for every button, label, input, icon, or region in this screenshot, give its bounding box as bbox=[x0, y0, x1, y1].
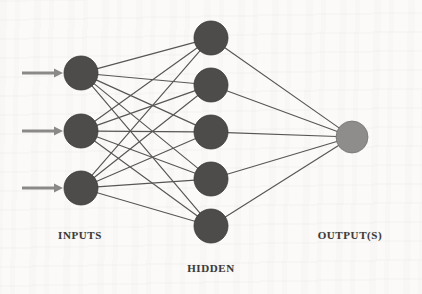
edge-i1-h5 bbox=[91, 85, 200, 214]
edge-i1-h1 bbox=[96, 42, 195, 69]
edge-i3-h4 bbox=[97, 180, 195, 187]
layer-label-outputs: OUTPUT(S) bbox=[318, 229, 383, 241]
edge-h2-o1 bbox=[226, 91, 338, 132]
input-hidden-edges bbox=[91, 42, 200, 221]
node-hidden-h4 bbox=[194, 162, 228, 196]
node-input-i2 bbox=[64, 114, 98, 148]
neural-network-diagram: INPUTS HIDDEN OUTPUT(S) bbox=[0, 0, 422, 294]
edge-i3-h5 bbox=[96, 192, 195, 221]
edge-i1-h3 bbox=[96, 80, 197, 126]
layer-label-inputs: INPUTS bbox=[58, 229, 102, 241]
edge-h1-o1 bbox=[224, 47, 340, 128]
edge-h5-o1 bbox=[225, 145, 340, 217]
layer-label-hidden: HIDDEN bbox=[187, 262, 235, 274]
hidden-output-edges bbox=[224, 47, 340, 217]
node-input-i3 bbox=[64, 171, 98, 205]
network-graphic bbox=[0, 0, 422, 294]
edge-i2-h3 bbox=[97, 131, 195, 132]
node-output-o1 bbox=[336, 121, 368, 153]
network-nodes-group bbox=[64, 21, 368, 243]
node-hidden-h3 bbox=[194, 115, 228, 149]
edge-i2-h5 bbox=[94, 140, 198, 216]
edge-h4-o1 bbox=[226, 141, 337, 174]
edge-h3-o1 bbox=[227, 133, 337, 137]
node-hidden-h1 bbox=[194, 21, 228, 55]
node-input-i1 bbox=[64, 56, 98, 90]
node-hidden-h5 bbox=[194, 209, 228, 243]
edge-i1-h2 bbox=[97, 74, 195, 83]
input-arrows-group bbox=[22, 68, 63, 192]
edge-i2-h1 bbox=[94, 47, 198, 121]
edge-i3-h3 bbox=[96, 138, 197, 181]
node-hidden-h2 bbox=[194, 68, 228, 102]
